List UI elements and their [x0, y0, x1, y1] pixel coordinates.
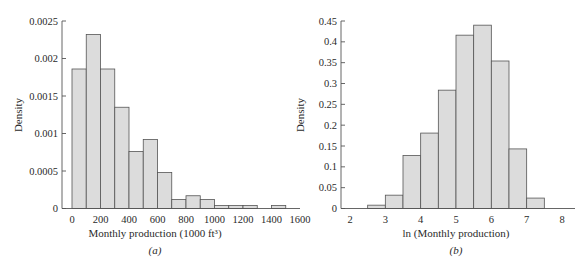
y-tick-label: 0 [53, 203, 58, 214]
y-tick-label: 0.0025 [29, 16, 58, 27]
y-tick-label: 0.002 [34, 53, 58, 64]
y-tick-label: 0.05 [319, 182, 337, 193]
y-axis-label-a: Density [12, 97, 24, 132]
x-tick-label: 600 [150, 214, 166, 225]
x-tick-label: 1600 [290, 214, 311, 225]
y-tick-labels-a: 00.00050.0010.00150.0020.0025 [29, 16, 58, 215]
x-tick-labels-b: 2345678 [347, 214, 564, 225]
x-tick-label: 7 [524, 214, 529, 225]
histogram-bar [86, 35, 100, 209]
x-axis-label-b: ln (Monthly production) [403, 227, 510, 240]
histogram-bar [491, 61, 509, 209]
x-tick-label: 4 [418, 214, 424, 225]
y-tick-label: 0.0015 [29, 91, 58, 102]
figure: 00.00050.0010.00150.0020.0025 0200400600… [0, 0, 587, 269]
histogram-panel-a: 00.00050.0010.00150.0020.0025 0200400600… [12, 16, 311, 258]
y-axis-label-b: Density [294, 97, 306, 132]
histogram-bar [438, 90, 456, 208]
y-tick-label: 0.15 [319, 141, 337, 152]
y-tick-label: 0.0005 [29, 166, 58, 177]
x-tick-label: 2 [347, 214, 352, 225]
histogram-bar [115, 107, 129, 208]
x-tick-label: 1200 [233, 214, 254, 225]
x-tick-label: 200 [93, 214, 109, 225]
y-tick-label: 0.2 [324, 120, 337, 131]
histogram-bar [129, 152, 143, 209]
y-tick-label: 0.3 [324, 78, 337, 89]
x-tick-label: 6 [489, 214, 494, 225]
histogram-bar [172, 200, 186, 209]
histogram-bar [456, 35, 474, 208]
y-tick-label: 0.001 [34, 128, 58, 139]
y-tick-label: 0.45 [319, 16, 337, 27]
histogram-bar [72, 69, 86, 209]
histogram-bar [158, 173, 172, 209]
histogram-bar [421, 133, 439, 208]
y-tick-label: 0 [332, 203, 337, 214]
histogram-bar [403, 156, 421, 209]
x-tick-label: 0 [69, 214, 74, 225]
caption-b: (b) [450, 244, 463, 257]
x-tick-labels-a: 02004006008001000120014001600 [69, 214, 310, 225]
histogram-panel-b: 00.050.10.150.20.250.30.350.40.45 234567… [294, 16, 575, 258]
y-tick-label: 0.25 [319, 99, 337, 110]
y-tick-label: 0.4 [324, 36, 338, 47]
y-tick-labels-b: 00.050.10.150.20.250.30.350.40.45 [319, 16, 338, 215]
histogram-bar [509, 149, 527, 209]
histogram-bars-a [72, 35, 286, 209]
x-tick-label: 1400 [261, 214, 282, 225]
x-tick-label: 8 [559, 214, 564, 225]
histogram-bar [200, 200, 214, 209]
y-tick-label: 0.1 [324, 161, 337, 172]
histogram-bars-b [368, 25, 545, 208]
x-tick-label: 3 [383, 214, 388, 225]
histogram-bar [385, 195, 403, 208]
x-tick-label: 800 [178, 214, 194, 225]
histogram-bar [368, 205, 386, 208]
x-axis-label-a: Monthly production (1000 ft³) [88, 227, 221, 240]
histogram-bar [527, 198, 545, 208]
histogram-bar [474, 25, 492, 208]
x-tick-label: 5 [453, 214, 458, 225]
y-tick-label: 0.35 [319, 57, 337, 68]
histogram-bar [186, 196, 200, 209]
x-tick-label: 1000 [204, 214, 225, 225]
histogram-bar [101, 69, 115, 209]
x-tick-label: 400 [121, 214, 137, 225]
histogram-bar [143, 140, 157, 209]
caption-a: (a) [149, 244, 162, 257]
